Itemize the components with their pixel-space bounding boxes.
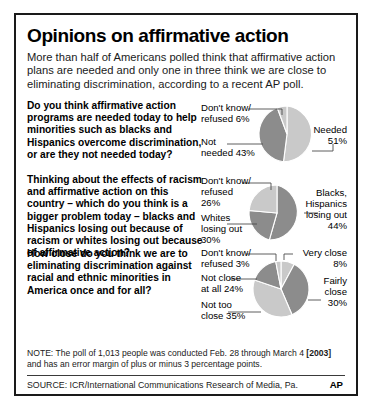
chart-area-3: Don't know/ refused 3% Not close at all …: [205, 246, 349, 326]
question-block-3: How close do you think we are to elimina…: [27, 246, 345, 326]
infographic-inner: Opinions on affirmative action More than…: [16, 15, 356, 394]
note-main: NOTE: The poll of 1,013 people was condu…: [27, 348, 306, 358]
pie-label-fairlyclose-3: Fairly close 30%: [295, 275, 347, 308]
note-text: NOTE: The poll of 1,013 people was condu…: [27, 348, 345, 369]
pie-label-dontknow-2: Don't know/ refused 26%: [201, 175, 259, 208]
question-block-1: Do you think affirmative action programs…: [27, 98, 345, 172]
pie-label-notcloseatall-3: Not close at all 24%: [201, 272, 253, 294]
note-year: [2003]: [306, 348, 331, 358]
pie-label-whites-2: Whites losing out 30%: [201, 212, 253, 245]
ap-logo: AP: [330, 379, 343, 390]
pie-label-notneeded-1: Not needed 43%: [201, 136, 257, 158]
pie-label-nottooclose-3: Not too close 35%: [201, 299, 253, 321]
pie-label-dontknow-1: Don't know/ refused 6%: [201, 102, 259, 124]
question-block-2: Thinking about the effects of racism and…: [27, 172, 345, 246]
pie-label-blacks-2: Blacks, Hispanics losing out 44%: [289, 187, 347, 231]
source-text: SOURCE: ICR/International Communications…: [27, 380, 298, 390]
source-line: SOURCE: ICR/International Communications…: [27, 375, 345, 396]
pie-label-veryclose-3: Very close 8%: [289, 247, 347, 269]
deck-summary: More than half of Americans polled think…: [27, 51, 345, 91]
note-tail: and has an error margin of plus or minus…: [27, 359, 262, 369]
pie-label-needed-1: Needed 51%: [291, 124, 347, 146]
infographic-panel: Opinions on affirmative action More than…: [14, 13, 358, 396]
page-title: Opinions on affirmative action: [27, 25, 345, 46]
question-text-1: Do you think affirmative action programs…: [27, 100, 205, 160]
chart-area-2: Don't know/ refused 26% Whites losing ou…: [205, 172, 349, 246]
pie-label-dontknow-3: Don't know/ refused 3%: [201, 247, 259, 269]
question-text-3: How close do you think we are to elimina…: [27, 248, 205, 296]
chart-area-1: Don't know/ refused 6% Not needed 43% Ne…: [205, 98, 349, 172]
